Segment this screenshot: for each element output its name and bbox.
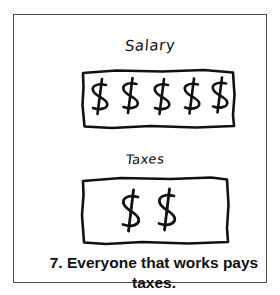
taxes-box-outline [82,178,229,245]
dollar-sign-4 [185,79,199,114]
dollar-sign-2 [159,189,175,230]
dollar-sign-5 [213,78,227,113]
dollar-sign-1 [123,190,139,231]
salary-label: Salary [124,36,176,55]
dollar-sign-1 [93,79,107,114]
dollar-sign-2 [123,78,137,113]
caption-line-1: 7. Everyone that works pays [32,253,276,273]
caption: 7. Everyone that works pays taxes. [32,253,276,293]
taxes-label: Taxes [125,151,165,167]
taxes-money-box [76,173,234,249]
caption-line-2: taxes. [32,273,276,293]
illustration-frame: Salary [13,14,267,283]
salary-money-box [76,65,238,133]
dollar-sign-3 [155,79,169,114]
worksheet-page: Salary [0,0,280,295]
